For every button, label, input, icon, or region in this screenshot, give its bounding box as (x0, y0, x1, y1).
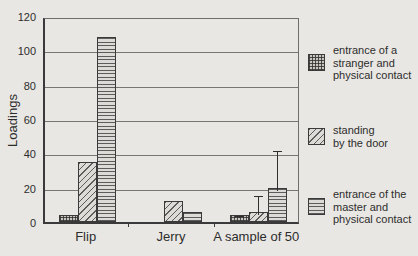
error-bar-cap-a-sample-of-50-horizontal (273, 151, 282, 152)
y-tick-label-40: 40 (0, 149, 36, 160)
bar-chart-figure: Loadings 020406080100120 FlipJerryA samp… (0, 0, 418, 256)
legend-swatch-horizontal-icon (308, 198, 325, 215)
error-bar-a-sample-of-50-diagonal (258, 196, 259, 215)
error-bar-cap-a-sample-of-50-diagonal (254, 196, 263, 197)
y-tick-label-120: 120 (0, 12, 36, 23)
legend-item-crosshatch: entrance of a stranger and physical cont… (308, 44, 411, 82)
legend-label-horizontal: entrance of the master and physical cont… (333, 188, 411, 226)
x-axis-label-jerry: Jerry (157, 229, 186, 244)
gridline-80 (45, 87, 298, 88)
y-tick-label-60: 60 (0, 115, 36, 126)
bar-flip-horizontal (97, 37, 116, 222)
bar-flip-crosshatch (59, 215, 78, 222)
bar-a-sample-of-50-horizontal (268, 188, 287, 222)
x-axis-label-flip: Flip (75, 229, 96, 244)
bar-flip-diagonal (78, 162, 97, 222)
y-tick-label-0: 0 (0, 218, 36, 229)
legend-item-diagonal: standing by the door (308, 124, 388, 149)
y-tick-label-100: 100 (0, 46, 36, 57)
x-axis-tick-2 (214, 223, 215, 227)
legend-label-diagonal: standing by the door (333, 124, 388, 149)
plot-area (43, 18, 299, 224)
legend-swatch-crosshatch-icon (308, 54, 325, 71)
y-tick-label-20: 20 (0, 184, 36, 195)
legend-swatch-diagonal-icon (308, 128, 325, 145)
gridline-100 (45, 52, 298, 53)
y-tick-label-80: 80 (0, 81, 36, 92)
legend-item-horizontal: entrance of the master and physical cont… (308, 188, 411, 226)
gridline-60 (45, 121, 298, 122)
x-axis-tick-1 (128, 223, 129, 227)
bar-jerry-horizontal (183, 212, 202, 222)
x-axis-label-a-sample-of-50: A sample of 50 (213, 229, 299, 244)
error-bar-a-sample-of-50-horizontal (277, 151, 278, 190)
error-bar-cap-a-sample-of-50-crosshatch (235, 216, 244, 217)
legend-label-crosshatch: entrance of a stranger and physical cont… (333, 44, 411, 82)
bar-jerry-diagonal (164, 201, 183, 222)
gridline-40 (45, 155, 298, 156)
